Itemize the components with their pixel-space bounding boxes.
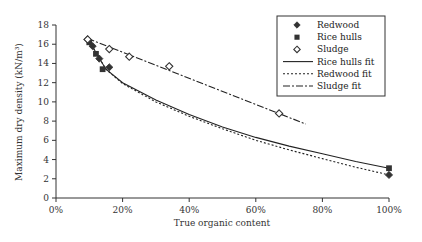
legend-label: Redwood fit <box>317 69 372 79</box>
x-tick-label: 100% <box>376 205 402 215</box>
y-tick-label: 6 <box>43 135 49 145</box>
y-tick-label: 14 <box>38 58 50 68</box>
y-tick-label: 4 <box>43 155 49 165</box>
y-tick-label: 2 <box>43 174 49 184</box>
legend-label: Redwood <box>317 20 359 30</box>
y-tick-label: 0 <box>43 193 49 203</box>
legend-marker-icon <box>294 35 299 40</box>
chart: 0246810121416180%20%40%60%80%100% Redwoo… <box>0 0 422 242</box>
y-tick-label: 16 <box>38 39 50 49</box>
rice-hulls-point <box>100 66 106 72</box>
sludge-point <box>276 110 283 117</box>
y-tick-label: 10 <box>38 97 50 107</box>
y-tick-label: 8 <box>43 116 49 126</box>
y-tick-label: 12 <box>38 78 49 88</box>
legend: RedwoodRice hullsSludgeRice hulls fitRed… <box>277 16 385 96</box>
legend-label: Sludge fit <box>317 81 362 91</box>
x-tick-label: 20% <box>113 205 133 215</box>
x-tick-label: 60% <box>246 205 266 215</box>
y-axis-label: Maximum dry density (kN/m³) <box>14 43 24 181</box>
legend-label: Sludge <box>317 44 349 54</box>
redwood-point <box>385 171 392 178</box>
rice-hulls-point <box>386 165 392 171</box>
legend-label: Rice hulls <box>317 32 362 42</box>
x-tick-label: 80% <box>312 205 332 215</box>
sludge-point <box>166 63 173 70</box>
y-tick-label: 18 <box>38 20 50 30</box>
rice-hulls-point <box>93 51 99 57</box>
x-tick-label: 0% <box>49 205 64 215</box>
legend-label: Rice hulls fit <box>317 57 375 67</box>
x-axis-label: True organic content <box>174 218 271 228</box>
sludge-point <box>106 45 113 52</box>
x-tick-label: 40% <box>179 205 199 215</box>
